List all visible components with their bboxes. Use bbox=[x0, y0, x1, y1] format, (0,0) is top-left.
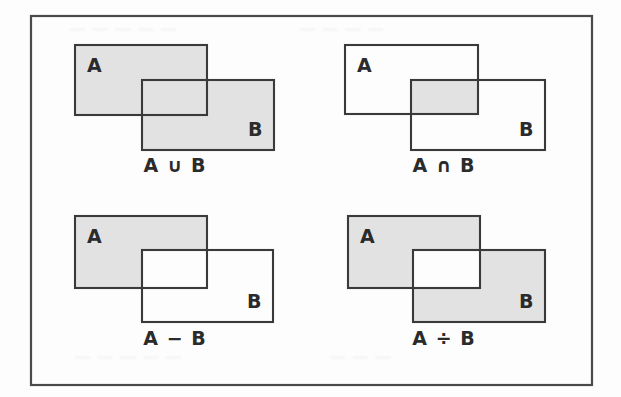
set-label-b: B bbox=[519, 290, 533, 312]
set-label-a: A bbox=[87, 225, 102, 247]
panel-union: ABA ∪ B bbox=[75, 45, 274, 176]
figure-canvas: ABA ∪ BABA ∩ BABA − BABA ÷ B bbox=[0, 0, 621, 397]
set-label-a: A bbox=[360, 225, 375, 247]
panel-symmetric-difference: ABA ÷ B bbox=[348, 216, 545, 349]
panel-caption-union: A ∪ B bbox=[144, 154, 207, 176]
shade-region-overlap bbox=[411, 80, 478, 114]
set-operations-figure: — — — — — — — — — — — — — — — — — ABA ∪ … bbox=[0, 0, 621, 397]
panel-difference: ABA − B bbox=[75, 216, 273, 349]
set-label-a: A bbox=[87, 54, 102, 76]
panel-caption-symmetric-difference: A ÷ B bbox=[412, 327, 475, 349]
set-label-b: B bbox=[248, 118, 262, 140]
panel-caption-difference: A − B bbox=[143, 327, 206, 349]
set-label-b: B bbox=[519, 118, 533, 140]
panel-caption-intersection: A ∩ B bbox=[413, 154, 476, 176]
panel-intersection: ABA ∩ B bbox=[345, 45, 545, 176]
set-label-b: B bbox=[247, 290, 261, 312]
panels-group: ABA ∪ BABA ∩ BABA − BABA ÷ B bbox=[75, 45, 545, 349]
set-label-a: A bbox=[357, 54, 372, 76]
